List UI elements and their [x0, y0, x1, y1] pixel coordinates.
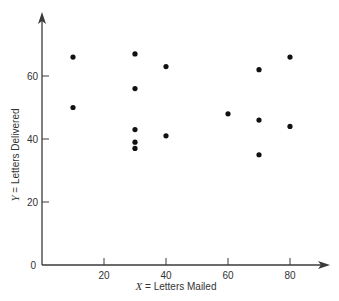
data-point	[163, 64, 168, 69]
y-tick-label: 20	[27, 197, 39, 208]
data-point	[163, 133, 168, 138]
scatter-chart: 20406080 204060 0 X = Letters Mailed Y =…	[0, 0, 339, 301]
data-point	[256, 152, 261, 157]
data-point	[70, 105, 75, 110]
x-axis-title-text: = Letters Mailed	[142, 281, 216, 292]
y-ticks: 204060	[27, 71, 49, 208]
data-point	[287, 55, 292, 60]
data-point	[70, 55, 75, 60]
x-tick-label: 20	[98, 270, 110, 281]
data-point	[132, 127, 137, 132]
data-point	[132, 86, 137, 91]
x-axis-title: X = Letters Mailed	[135, 280, 217, 292]
origin-label: 0	[30, 260, 36, 271]
y-tick-label: 40	[27, 134, 39, 145]
x-tick-label: 40	[160, 270, 172, 281]
x-tick-label: 80	[284, 270, 296, 281]
x-ticks: 20406080	[98, 258, 296, 281]
data-point	[132, 51, 137, 56]
y-axis-title: Y = Letters Delivered	[9, 108, 21, 201]
data-point	[287, 124, 292, 129]
y-axis-title-text: = Letters Delivered	[10, 108, 21, 195]
data-point	[225, 111, 230, 116]
data-point	[256, 118, 261, 123]
y-tick-label: 60	[27, 71, 39, 82]
data-point	[132, 146, 137, 151]
x-tick-label: 60	[222, 270, 234, 281]
data-points	[70, 51, 292, 157]
axes	[38, 12, 330, 269]
data-point	[132, 140, 137, 145]
data-point	[256, 67, 261, 72]
